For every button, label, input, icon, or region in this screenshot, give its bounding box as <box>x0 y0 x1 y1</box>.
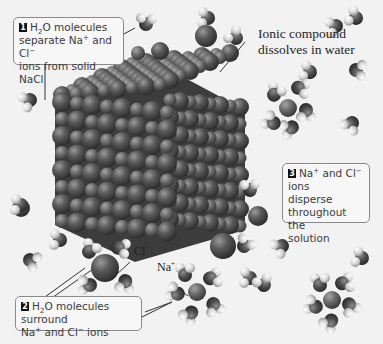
step-3-text-c: ions <box>288 180 309 192</box>
step-1-text-c: separate Na <box>19 34 83 46</box>
chloride-label: Cl− <box>134 244 149 259</box>
step-badge-1: 1 <box>19 23 27 32</box>
step-3-text-b: and Cl <box>319 167 356 179</box>
superscript: − <box>29 47 35 55</box>
step-2-text-a: H <box>32 300 40 312</box>
superscript: − <box>356 167 362 175</box>
step-badge-2: 2 <box>21 302 29 311</box>
step-2-text-e: ions <box>84 326 109 338</box>
dissolution-diagram: 1H2O molecules separate Na+ and Cl− ions… <box>0 0 383 344</box>
step-3-text-d: disperse <box>288 193 332 205</box>
sodium-symbol: Na <box>157 260 171 274</box>
chloride-charge: − <box>145 244 149 252</box>
sodium-label: Na+ <box>157 260 175 275</box>
main-label-line-2: dissolves in water <box>258 42 355 57</box>
main-label: Ionic compound dissolves in water <box>258 26 355 58</box>
chloride-symbol: Cl <box>134 244 145 258</box>
step-3-text-f: solution <box>288 232 330 244</box>
callout-step-2: 2H2O molecules surround Na+ and Cl− ions <box>15 296 142 331</box>
step-2-text-d: and Cl <box>41 326 78 338</box>
step-badge-3: 3 <box>288 169 296 178</box>
step-1-text-a: H <box>30 21 38 33</box>
step-1-text-b: O molecules <box>42 21 107 33</box>
main-label-line-1: Ionic compound <box>258 26 346 41</box>
step-2-text-c: Na <box>21 326 35 338</box>
callout-step-3: 3Na+ and Cl− ions disperse throughout th… <box>282 163 370 223</box>
sodium-charge: + <box>171 260 175 268</box>
callout-step-1: 1H2O molecules separate Na+ and Cl− ions… <box>13 17 124 65</box>
step-3-text-a: Na <box>299 167 313 179</box>
nacl-crystal <box>52 44 249 262</box>
